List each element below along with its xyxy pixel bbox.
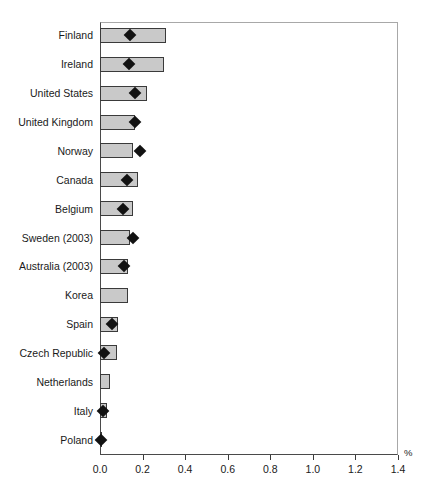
x-axis-tick: [185, 455, 186, 460]
x-axis-tick-label: 0.4: [178, 463, 193, 475]
x-axis-tick: [355, 455, 356, 460]
x-axis-layer: % 0.00.20.40.60.81.01.21.4: [0, 0, 432, 499]
x-axis-tick-label: 0.0: [93, 463, 108, 475]
x-axis-unit-label: %: [404, 447, 412, 458]
x-axis-tick-label: 1.2: [348, 463, 363, 475]
x-axis-tick-label: 1.4: [391, 463, 406, 475]
x-axis-tick-label: 0.6: [220, 463, 235, 475]
x-axis-tick: [313, 455, 314, 460]
horizontal-bar-chart: FinlandIrelandUnited StatesUnited Kingdo…: [0, 0, 432, 499]
x-axis-tick-label: 0.2: [135, 463, 150, 475]
x-axis-tick: [398, 455, 399, 460]
x-axis-tick: [270, 455, 271, 460]
x-axis-tick: [228, 455, 229, 460]
x-axis-tick-label: 1.0: [306, 463, 321, 475]
x-axis-tick: [143, 455, 144, 460]
x-axis-tick-label: 0.8: [263, 463, 278, 475]
